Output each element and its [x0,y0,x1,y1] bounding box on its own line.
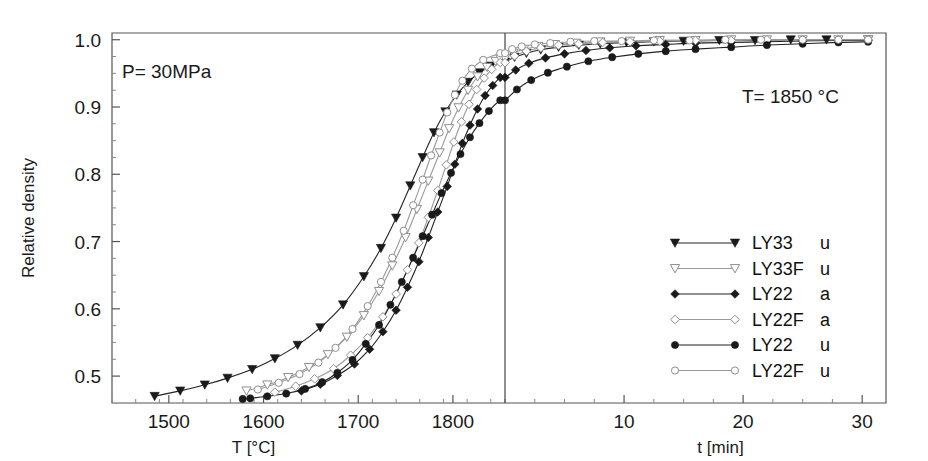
y-axis-ticks: 0.50.60.70.80.91.0 [75,30,120,387]
x-tick-label-temperature: 1600 [242,411,284,432]
legend-suffix-ly22-u: u [820,335,830,355]
legend-marker-diamond-open [731,315,740,324]
marker-diamond-filled [511,66,520,75]
marker-circle-open [451,91,458,98]
marker-triangle-down-filled [293,341,302,349]
marker-circle-filled [334,369,341,376]
marker-circle-open [722,36,729,43]
marker-circle-open [650,37,657,44]
legend-suffix-ly22f-a: a [820,310,831,330]
marker-circle-open [428,152,435,159]
marker-circle-open [377,278,384,285]
marker-circle-filled [457,150,464,157]
marker-circle-open [349,325,356,332]
marker-circle-open [686,37,693,44]
marker-circle-filled [763,42,770,49]
marker-triangle-down-filled [270,355,279,363]
marker-diamond-open [465,100,474,109]
marker-triangle-down-filled [376,244,385,252]
marker-circle-open [480,56,487,63]
marker-circle-open [254,386,261,393]
marker-circle-filled [662,48,669,55]
marker-diamond-open [457,118,466,127]
legend-label-ly22-a: LY22 [752,284,793,304]
marker-circle-filled [428,211,435,218]
marker-circle-filled [398,278,405,285]
marker-diamond-open [450,138,459,147]
marker-triangle-down-filled [406,182,415,190]
legend-label-ly33-u: LY33 [752,233,793,253]
marker-diamond-open [472,85,481,94]
marker-circle-filled [410,254,417,261]
y-tick-label: 0.9 [75,97,101,118]
legend-suffix-ly33-u: u [820,233,830,253]
marker-circle-filled [728,44,735,51]
marker-circle-filled [485,107,492,114]
marker-circle-filled [375,321,382,328]
marker-circle-open [364,303,371,310]
legend-marker-diamond-filled [671,290,680,299]
marker-circle-open [400,227,407,234]
marker-circle-open [531,41,538,48]
marker-circle-filled [247,395,254,402]
marker-circle-filled [362,340,369,347]
marker-circle-open [459,77,466,84]
legend-marker-diamond-open [671,315,680,324]
marker-circle-open [547,39,554,46]
marker-circle-filled [466,134,473,141]
marker-triangle-down-open [401,234,410,242]
relative-density-chart: 0.50.60.70.80.91.0 150016001700180010203… [0,0,928,461]
marker-circle-open [332,344,339,351]
x-axis-ticks: 1500160017001800102030 [112,395,873,432]
x-axis-title-time: t [min] [697,438,743,457]
marker-diamond-filled [481,91,490,100]
y-tick-label: 1.0 [75,30,101,51]
marker-circle-filled [438,190,445,197]
marker-triangle-down-open [454,104,463,112]
x-tick-label-time: 10 [613,411,634,432]
marker-circle-filled [476,120,483,127]
marker-circle-filled [609,54,616,61]
legend-suffix-ly22f-u: u [820,361,830,381]
marker-circle-open [591,37,598,44]
legend-label-ly22f-u: LY22F [752,361,804,381]
marker-circle-filled [585,58,592,65]
legend-marker-circle-open [671,367,678,374]
marker-circle-open [509,46,516,53]
marker-circle-filled [692,46,699,53]
marker-diamond-filled [451,160,460,169]
marker-circle-filled [419,233,426,240]
marker-circle-filled [283,390,290,397]
marker-circle-filled [349,356,356,363]
marker-diamond-filled [466,121,475,130]
marker-triangle-down-filled [248,365,257,373]
marker-diamond-filled [473,105,482,114]
x-tick-label-time: 20 [733,411,754,432]
marker-diamond-filled [582,46,591,55]
marker-circle-filled [528,76,535,83]
marker-circle-open [501,50,508,57]
temperature-annotation: T= 1850 °C [742,86,839,107]
marker-diamond-open [392,290,401,299]
legend-suffix-ly33f-u: u [820,259,830,279]
y-tick-label: 0.8 [75,164,101,185]
legend-label-ly22-u: LY22 [752,335,793,355]
marker-diamond-filled [605,44,614,53]
marker-circle-open [799,36,806,43]
marker-circle-open [296,370,303,377]
marker-circle-filled [319,379,326,386]
marker-diamond-filled [560,50,569,59]
marker-circle-open [444,109,451,116]
x-tick-label-temperature: 1700 [337,411,379,432]
marker-circle-filled [513,86,520,93]
marker-triangle-down-open [445,125,454,133]
marker-circle-filled [563,63,570,70]
marker-diamond-filled [443,182,452,191]
legend-label-ly22f-a: LY22F [752,310,804,330]
marker-circle-open [757,36,764,43]
series-legend: LY33uLY33FuLY22aLY22FaLY22uLY22Fu [670,233,831,381]
marker-triangle-down-filled [391,214,400,222]
figure-container: 0.50.60.70.80.91.0 150016001700180010203… [0,0,928,461]
marker-circle-filled [264,393,271,400]
y-tick-label: 0.6 [75,299,101,320]
